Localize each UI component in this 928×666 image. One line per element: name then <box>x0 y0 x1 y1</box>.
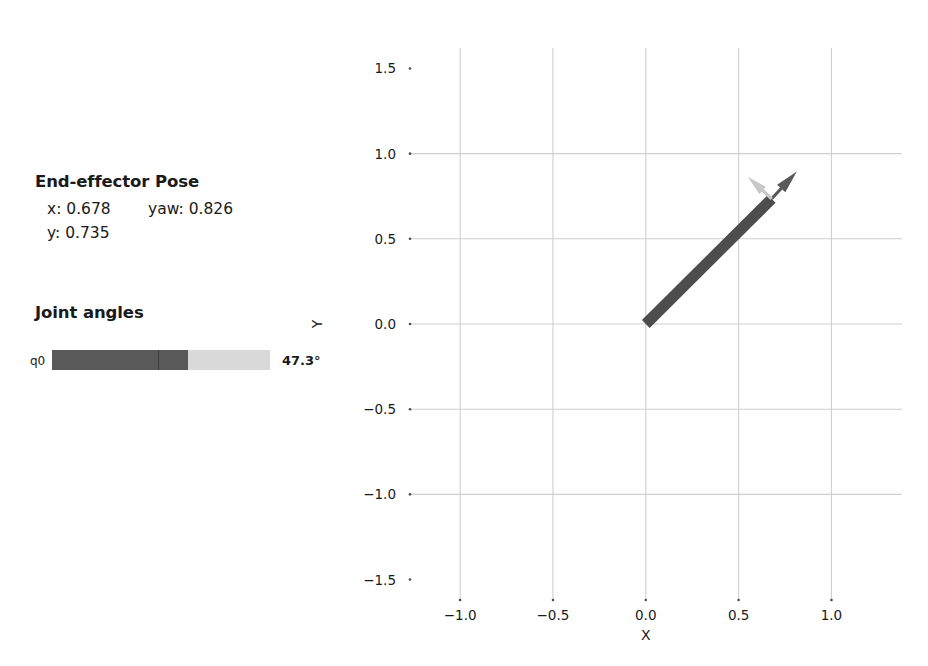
y-tick-label: −1.5 <box>363 572 396 588</box>
y-tick-label: −0.5 <box>363 401 396 417</box>
robot-link <box>646 199 772 324</box>
x-tick-label: −1.0 <box>444 607 477 623</box>
y-tick-dot <box>409 67 412 70</box>
app-root: End-effector Pose x: 0.678 y: 0.735 yaw:… <box>0 0 928 666</box>
y-tick-dot <box>409 323 412 326</box>
robot-arm-plot: −1.5−1.0−0.50.00.51.01.5−1.0−0.50.00.51.… <box>0 0 928 666</box>
y-tick-dot <box>409 238 412 241</box>
x-tick-label: 0.5 <box>728 607 749 623</box>
x-tick-label: 1.0 <box>821 607 842 623</box>
axis-labels: −1.5−1.0−0.50.00.51.01.5−1.0−0.50.00.51.… <box>309 60 842 643</box>
x-tick-label: 0.0 <box>635 607 656 623</box>
y-tick-dot <box>409 578 412 581</box>
y-tick-label: 0.0 <box>375 316 396 332</box>
x-tick-dot <box>830 599 833 602</box>
grid-lines <box>410 48 902 600</box>
x-tick-dot <box>552 599 555 602</box>
plot-canvas[interactable]: −1.5−1.0−0.50.00.51.01.5−1.0−0.50.00.51.… <box>0 0 928 666</box>
x-tick-dot <box>737 599 740 602</box>
x-tick-label: −0.5 <box>537 607 570 623</box>
x-tick-dot <box>644 599 647 602</box>
y-tick-label: −1.0 <box>363 486 396 502</box>
y-tick-dot <box>409 493 412 496</box>
y-tick-dot <box>409 152 412 155</box>
y-tick-label: 0.5 <box>375 231 396 247</box>
y-axis-title: Y <box>309 319 325 329</box>
y-tick-dot <box>409 408 412 411</box>
tick-markers <box>409 67 833 601</box>
x-tick-dot <box>459 599 462 602</box>
x-axis-title: X <box>641 627 651 643</box>
robot-graphic <box>646 171 797 324</box>
y-tick-label: 1.5 <box>375 60 396 76</box>
y-tick-label: 1.0 <box>375 146 396 162</box>
